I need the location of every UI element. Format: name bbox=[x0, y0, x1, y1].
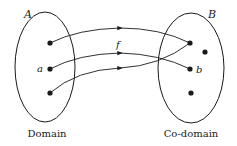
codomain-element-label-b: b bbox=[196, 64, 202, 75]
domain-point-a bbox=[47, 66, 52, 71]
domain-set-ellipse bbox=[15, 12, 75, 122]
function-mapping-diagram: A B f a b Domain Co-domain bbox=[0, 0, 237, 146]
codomain-point-1 bbox=[187, 40, 192, 45]
codomain-point-b bbox=[187, 66, 192, 71]
domain-caption: Domain bbox=[27, 128, 67, 139]
codomain-set-label: B bbox=[207, 8, 216, 21]
function-label: f bbox=[115, 39, 122, 50]
codomain-caption: Co-domain bbox=[164, 128, 219, 139]
domain-point-1 bbox=[47, 40, 52, 45]
mapping-arrow-2 bbox=[50, 53, 190, 69]
mapping-arrow-3 bbox=[50, 43, 190, 93]
domain-element-label-a: a bbox=[37, 63, 43, 74]
codomain-point-4 bbox=[188, 90, 193, 95]
codomain-point-2 bbox=[202, 49, 207, 54]
domain-point-3 bbox=[47, 90, 52, 95]
domain-set-label: A bbox=[23, 8, 32, 21]
